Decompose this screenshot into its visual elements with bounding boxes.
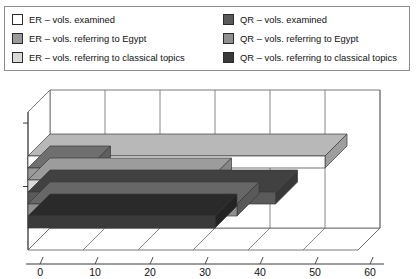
legend-swatch-er-classical [12,52,23,63]
legend-label-er-examined: ER – vols. examined [29,14,115,25]
chart-canvas: 0102030405060 [0,78,418,279]
legend-label-er-egypt: ER – vols. referring to Egypt [29,33,146,44]
x-axis-tick-label: 10 [89,266,101,278]
legend-swatch-er-egypt [12,33,23,44]
legend-item-er-examined: ER – vols. examined [12,14,223,25]
x-axis-tick-label: 50 [309,266,321,278]
legend-label-qr-examined: QR – vols. examined [240,14,327,25]
legend-swatch-qr-examined [223,14,234,25]
x-axis-tick [370,257,373,264]
x-axis-tick-label: 20 [144,266,156,278]
legend-grid: ER – vols. examined QR – vols. examined … [5,7,409,70]
chart-legend: ER – vols. examined QR – vols. examined … [4,6,410,71]
chart-figure: ER – vols. examined QR – vols. examined … [0,0,418,279]
x-axis-tick [315,257,318,264]
x-axis-tick [150,257,153,264]
legend-label-er-classical: ER – vols. referring to classical topics [29,52,185,63]
legend-item-qr-examined: QR – vols. examined [223,14,409,25]
x-axis-tick [95,257,98,264]
legend-item-er-classical: ER – vols. referring to classical topics [12,52,223,63]
x-axis-tick-label: 0 [37,266,43,278]
legend-item-er-egypt: ER – vols. referring to Egypt [12,33,223,44]
legend-swatch-qr-egypt [223,33,234,44]
x-axis-tick-label: 40 [254,266,266,278]
bar-series-5 [28,194,237,228]
legend-swatch-er-examined [12,14,23,25]
bar-front-face [28,216,215,228]
x-axis-tick-label: 60 [364,266,376,278]
x-axis-tick-label: 30 [199,266,211,278]
legend-item-qr-egypt: QR – vols. referring to Egypt [223,33,409,44]
bar-top-face [28,194,237,216]
legend-label-qr-classical: QR – vols. referring to classical topics [240,52,397,63]
x-axis-tick [205,257,208,264]
legend-swatch-qr-classical [223,52,234,63]
legend-label-qr-egypt: QR – vols. referring to Egypt [240,33,358,44]
bar-chart-3d: 0102030405060 [0,78,418,279]
x-axis-tick [260,257,263,264]
x-axis-tick [40,257,43,264]
legend-item-qr-classical: QR – vols. referring to classical topics [223,52,409,63]
